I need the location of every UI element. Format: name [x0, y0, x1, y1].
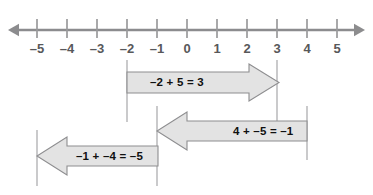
tick-label--5: –5 — [25, 41, 49, 56]
tick-label-1: 1 — [205, 41, 229, 56]
tick-label-0: 0 — [175, 41, 199, 56]
tick-label--2: –2 — [115, 41, 139, 56]
axis-left-arrowhead — [8, 24, 19, 36]
tick-label-3: 3 — [265, 41, 289, 56]
tick-label--1: –1 — [145, 41, 169, 56]
tick-label-4: 4 — [295, 41, 319, 56]
tick-label--4: –4 — [55, 41, 79, 56]
arrow-4-plus-minus5-equation: 4 + –5 = –1 — [233, 125, 293, 137]
tick-label-5: 5 — [325, 41, 349, 56]
arrow-minus1-plus-minus4-equation: –1 + –4 = –5 — [76, 150, 143, 162]
number-line-figure: –5–4–3–2–1012345 –2 + 5 = 34 + –5 = –1–1… — [0, 0, 373, 195]
figure-canvas — [0, 0, 373, 195]
number-line-axis-group — [8, 19, 365, 38]
tick-label-2: 2 — [235, 41, 259, 56]
arrow-minus2-plus5-equation: –2 + 5 = 3 — [150, 76, 204, 88]
axis-right-arrowhead — [354, 24, 365, 36]
tick-label--3: –3 — [85, 41, 109, 56]
